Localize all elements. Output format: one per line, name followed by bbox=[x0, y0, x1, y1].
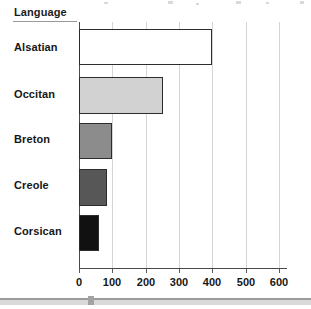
x-tick-label-300: 300 bbox=[170, 276, 188, 288]
x-tick-400 bbox=[212, 269, 213, 273]
bar-creole bbox=[79, 169, 107, 206]
category-axis-header: Language bbox=[14, 6, 67, 18]
x-tick-label-0: 0 bbox=[76, 276, 82, 288]
bar-alsatian bbox=[79, 29, 212, 65]
bar-occitan bbox=[79, 77, 163, 114]
x-tick-200 bbox=[146, 269, 147, 273]
x-tick-label-600: 600 bbox=[270, 276, 288, 288]
bar-corsican bbox=[79, 215, 99, 251]
x-tick-0 bbox=[79, 269, 80, 273]
x-tick-100 bbox=[112, 269, 113, 273]
x-tick-label-200: 200 bbox=[137, 276, 155, 288]
x-tick-300 bbox=[179, 269, 180, 273]
bar-breton bbox=[79, 123, 112, 159]
category-header-underline bbox=[13, 21, 77, 22]
x-tick-label-400: 400 bbox=[203, 276, 221, 288]
gridline-400 bbox=[212, 22, 213, 268]
chart-figure: Language Alsatian Occitan Breton Creole … bbox=[0, 0, 311, 309]
x-axis-line bbox=[79, 268, 287, 269]
plot-area bbox=[79, 22, 287, 268]
x-tick-500 bbox=[246, 269, 247, 273]
page-edge-artifact bbox=[0, 296, 311, 309]
category-label-creole: Creole bbox=[14, 179, 49, 191]
category-label-alsatian: Alsatian bbox=[14, 41, 58, 53]
gridline-600 bbox=[279, 22, 280, 268]
category-label-corsican: Corsican bbox=[14, 225, 62, 237]
x-tick-label-500: 500 bbox=[237, 276, 255, 288]
x-tick-label-100: 100 bbox=[103, 276, 121, 288]
x-tick-600 bbox=[279, 269, 280, 273]
category-label-occitan: Occitan bbox=[14, 88, 55, 100]
category-label-breton: Breton bbox=[14, 133, 50, 145]
gridline-500 bbox=[246, 22, 247, 268]
